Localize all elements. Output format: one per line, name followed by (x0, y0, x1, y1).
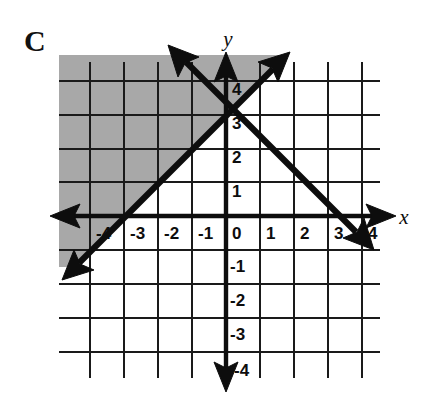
x-tick-label: -3 (130, 224, 145, 243)
y-tick-label: 3 (232, 114, 241, 133)
x-axis-label: x (398, 205, 409, 229)
coordinate-plane: -4 -3 -2 -1 0 1 2 3 4 4 3 2 1 -1 -2 -3 -… (0, 0, 428, 404)
x-tick-label: -2 (164, 224, 179, 243)
y-tick-label: -2 (230, 291, 245, 310)
x-tick-label: 3 (334, 224, 343, 243)
graph-figure: C (0, 0, 428, 404)
y-axis-label: y (221, 27, 233, 51)
y-tick-label: 2 (232, 148, 241, 167)
x-tick-label: -1 (198, 224, 213, 243)
boundary-line-falling (168, 45, 374, 250)
x-tick-label-origin: 0 (232, 224, 241, 243)
y-tick-label: -4 (234, 361, 250, 380)
y-tick-label: -1 (230, 257, 245, 276)
x-tick-labels: -4 -3 -2 -1 0 1 2 3 4 (96, 224, 378, 243)
x-tick-label: 4 (368, 224, 378, 243)
x-tick-label: 1 (266, 224, 275, 243)
y-tick-label: 1 (232, 182, 241, 201)
x-tick-label: 2 (300, 224, 309, 243)
y-tick-label: 4 (232, 80, 242, 99)
x-tick-label: -4 (96, 224, 112, 243)
y-tick-label: -3 (230, 325, 245, 344)
